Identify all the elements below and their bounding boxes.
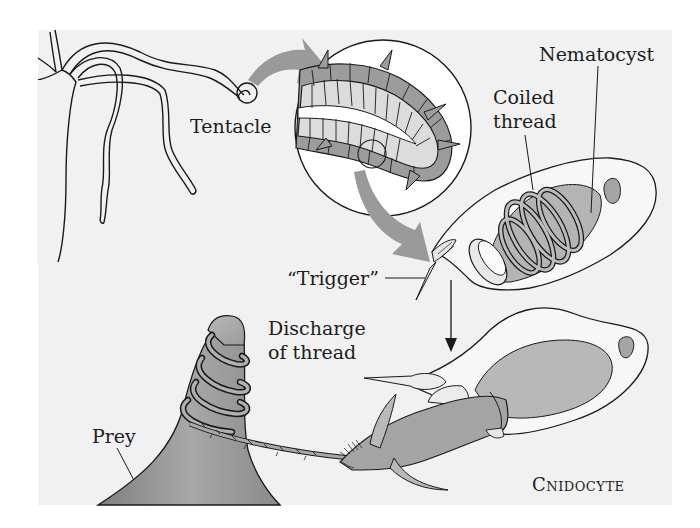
label-tentacle: Tentacle xyxy=(190,115,272,137)
label-coiled-thread-1: Coiled xyxy=(493,86,555,108)
tentacle-right xyxy=(78,75,196,194)
label-prey: Prey xyxy=(92,425,136,447)
down-arrow xyxy=(445,280,457,352)
label-nematocyst: Nematocyst xyxy=(539,43,654,65)
label-trigger: “Trigger” xyxy=(287,267,379,289)
nematocyst-discharged xyxy=(340,308,648,490)
label-coiled-thread-2: thread xyxy=(493,110,557,132)
label-cnidocyte: Cnidocyte xyxy=(532,474,625,496)
label-discharge-2: of thread xyxy=(268,341,356,363)
cnidocyte-illustration xyxy=(0,0,700,528)
magnified-tentacle xyxy=(295,40,471,216)
polyp-body xyxy=(38,30,76,262)
label-discharge-1: Discharge xyxy=(268,317,366,339)
